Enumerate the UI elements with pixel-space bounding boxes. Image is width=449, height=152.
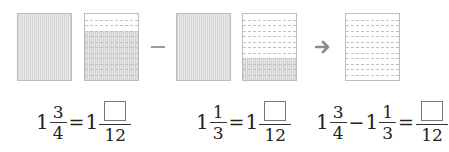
denominator: 3 <box>210 124 227 142</box>
fraction: 1 3 <box>379 103 396 142</box>
row-divider <box>346 53 399 54</box>
whole-number: 1 <box>196 112 209 132</box>
equals-sign: = <box>229 113 245 132</box>
numerator: 1 <box>210 103 227 121</box>
denominator: 12 <box>101 126 129 144</box>
row-divider <box>346 69 399 70</box>
row-divider <box>346 25 399 26</box>
row-divider <box>85 69 138 70</box>
equation-subtraction: 1 3 4 − 1 1 3 = 12 <box>316 100 449 144</box>
equals-sign: = <box>398 113 414 132</box>
row-divider <box>243 75 296 76</box>
shaded-region <box>85 31 138 81</box>
row-divider <box>85 36 138 37</box>
fraction-answer: 12 <box>416 101 448 144</box>
row-divider <box>85 47 138 48</box>
row-divider <box>85 20 138 21</box>
equation-convert-second: 1 1 3 = 1 12 <box>196 100 292 144</box>
row-divider <box>243 58 296 59</box>
whole-number: 1 <box>245 112 258 132</box>
row-divider <box>243 36 296 37</box>
denominator: 4 <box>50 124 67 142</box>
answer-box[interactable] <box>104 101 126 121</box>
row-divider <box>243 53 296 54</box>
denominator: 3 <box>379 124 396 142</box>
row-divider <box>85 42 138 43</box>
minus-sign: − <box>349 113 365 132</box>
row-divider <box>346 58 399 59</box>
row-divider <box>346 47 399 48</box>
fraction: 1 3 <box>210 103 227 142</box>
equals-sign: = <box>69 113 85 132</box>
row-divider <box>243 31 296 32</box>
numerator: 3 <box>330 103 347 121</box>
row-divider <box>85 25 138 26</box>
row-divider <box>346 36 399 37</box>
denominator: 12 <box>418 126 446 144</box>
fraction-model-whole-1 <box>17 13 72 81</box>
row-divider <box>85 53 138 54</box>
fraction: 3 4 <box>330 103 347 142</box>
row-divider <box>243 64 296 65</box>
row-divider <box>243 69 296 70</box>
fraction-model-three-quarters <box>84 13 139 81</box>
answer-box[interactable] <box>264 101 286 121</box>
fraction-answer: 12 <box>259 101 291 144</box>
whole-number: 1 <box>316 112 329 132</box>
row-divider <box>346 20 399 21</box>
fraction-model-whole-2 <box>176 13 231 81</box>
fraction-model-one-third <box>242 13 297 81</box>
row-divider <box>85 64 138 65</box>
row-divider <box>346 64 399 65</box>
fraction-model-answer <box>345 13 400 81</box>
row-divider <box>243 25 296 26</box>
row-divider <box>346 75 399 76</box>
row-divider <box>243 20 296 21</box>
row-divider <box>85 31 138 32</box>
fraction-answer: 12 <box>99 101 131 144</box>
numerator: 3 <box>50 103 67 121</box>
row-divider <box>243 47 296 48</box>
row-divider <box>85 58 138 59</box>
right-arrow-icon <box>315 39 331 55</box>
whole-number: 1 <box>365 112 378 132</box>
fraction: 3 4 <box>50 103 67 142</box>
row-divider <box>346 42 399 43</box>
whole-number: 1 <box>36 112 49 132</box>
whole-number: 1 <box>85 112 98 132</box>
row-divider <box>346 31 399 32</box>
row-divider <box>85 75 138 76</box>
denominator: 12 <box>261 126 289 144</box>
answer-box[interactable] <box>421 101 443 121</box>
row-divider <box>243 42 296 43</box>
minus-sign <box>151 46 165 48</box>
equation-convert-first: 1 3 4 = 1 12 <box>36 100 132 144</box>
numerator: 1 <box>379 103 396 121</box>
denominator: 4 <box>330 124 347 142</box>
